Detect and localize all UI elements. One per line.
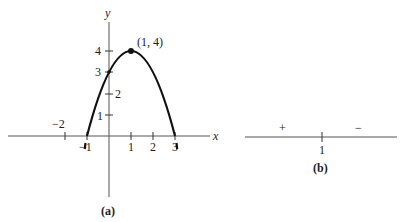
y-tick-label-3: 3 bbox=[95, 65, 101, 79]
y-tick-label-4: 4 bbox=[95, 44, 101, 58]
vertex-label: (1, 4) bbox=[137, 35, 163, 49]
y-tick-label-1: 1 bbox=[97, 109, 103, 123]
figure-b-caption: (b) bbox=[313, 161, 328, 175]
sign-minus: − bbox=[355, 121, 362, 135]
sign-plus: + bbox=[279, 121, 286, 135]
figure-b: 1 + − (b) bbox=[245, 121, 397, 175]
x-axis-label: x bbox=[212, 129, 219, 143]
figure-a-caption: (a) bbox=[101, 204, 115, 218]
curve-extension-left bbox=[85, 143, 86, 149]
curve-extension-right bbox=[177, 143, 178, 149]
x-tick-label-1: 1 bbox=[128, 140, 134, 154]
x-tick-label-neg2: −2 bbox=[52, 117, 65, 131]
y-tick-label-2: 2 bbox=[115, 87, 121, 101]
y-intercept-point bbox=[107, 70, 111, 74]
figure-a: x y −2 −1 1 2 3 1 2 3 4 bbox=[8, 6, 219, 218]
vertex-point bbox=[128, 48, 134, 54]
y-axis-label: y bbox=[104, 6, 111, 20]
x-tick-label-2: 2 bbox=[150, 140, 156, 154]
sign-line-tick-label: 1 bbox=[319, 143, 325, 157]
figure-canvas: x y −2 −1 1 2 3 1 2 3 4 bbox=[0, 0, 401, 222]
parabola-curve bbox=[87, 51, 175, 136]
